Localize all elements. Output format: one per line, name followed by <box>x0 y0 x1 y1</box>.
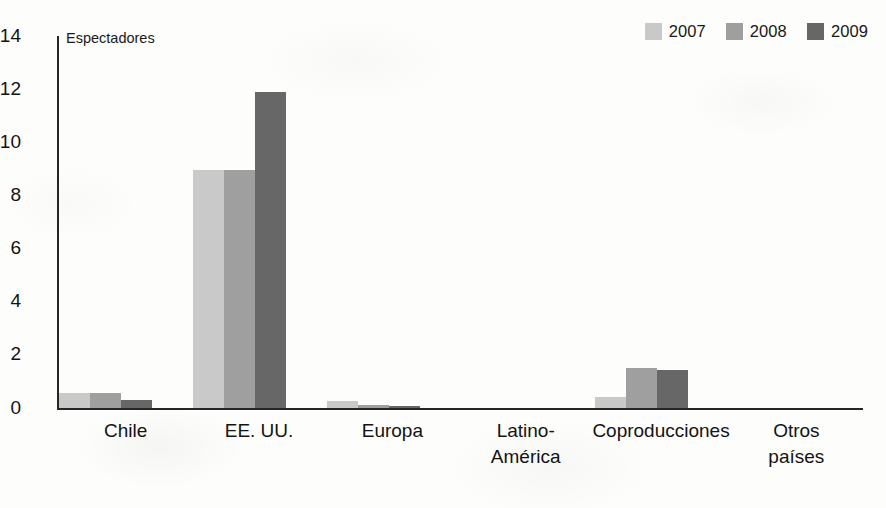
chart-figure: 200720082009 Espectadores 02468101214 Ch… <box>0 0 886 508</box>
legend-label-2007: 2007 <box>669 22 706 41</box>
y-tick-2: 2 <box>0 343 21 365</box>
category-label-2: Europa <box>326 418 459 470</box>
bar-2007-4 <box>595 397 626 408</box>
bar-groups <box>59 37 863 408</box>
y-tick-8: 8 <box>0 184 21 206</box>
y-tick-4: 4 <box>0 290 21 312</box>
bar-group-5 <box>729 37 863 408</box>
legend-swatch-2008 <box>726 23 743 40</box>
bar-2009-4 <box>657 370 688 407</box>
bar-group-4 <box>595 37 729 408</box>
bar-2009-1 <box>255 92 286 408</box>
bar-2009-2 <box>389 406 420 408</box>
category-label-1: EE. UU. <box>192 418 325 470</box>
bar-2008-4 <box>626 368 657 408</box>
bar-group-0 <box>59 37 193 408</box>
category-label-5: Otros países <box>730 418 863 470</box>
y-tick-12: 12 <box>0 78 21 100</box>
chart-legend: 200720082009 <box>645 22 868 41</box>
legend-swatch-2009 <box>807 23 824 40</box>
bar-2008-2 <box>358 405 389 408</box>
bar-group-3 <box>461 37 595 408</box>
bar-group-2 <box>327 37 461 408</box>
y-tick-0: 0 <box>0 397 21 419</box>
legend-label-2008: 2008 <box>750 22 787 41</box>
bar-group-1 <box>193 37 327 408</box>
y-tick-14: 14 <box>0 25 21 47</box>
plot-area: 02468101214 <box>57 36 863 410</box>
bar-2007-2 <box>327 401 358 408</box>
legend-label-2009: 2009 <box>831 22 868 41</box>
bar-2007-1 <box>193 170 224 407</box>
bar-2008-1 <box>224 170 255 407</box>
category-label-0: Chile <box>59 418 192 470</box>
bar-2009-0 <box>121 400 152 408</box>
y-axis-title: Espectadores <box>66 30 155 46</box>
y-tick-10: 10 <box>0 131 21 153</box>
x-axis-category-labels: ChileEE. UU.EuropaLatino- AméricaCoprodu… <box>59 418 863 470</box>
category-label-4: Coproducciones <box>592 418 729 470</box>
bar-2007-0 <box>59 393 90 408</box>
bar-2008-0 <box>90 393 121 408</box>
legend-swatch-2007 <box>645 23 662 40</box>
y-tick-6: 6 <box>0 237 21 259</box>
legend-entry-2009: 2009 <box>807 22 868 41</box>
x-axis-line <box>57 408 863 411</box>
legend-entry-2008: 2008 <box>726 22 787 41</box>
legend-entry-2007: 2007 <box>645 22 706 41</box>
category-label-3: Latino- América <box>459 418 592 470</box>
